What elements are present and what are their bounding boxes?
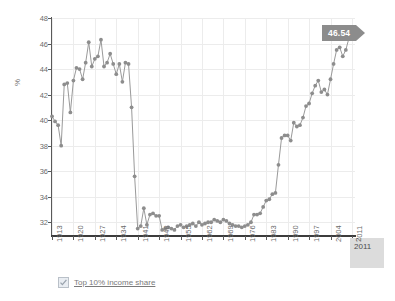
x-axis-tick-mark	[159, 236, 160, 240]
legend-checkbox[interactable]	[58, 277, 69, 288]
y-axis-tick-mark	[48, 18, 52, 19]
data-point[interactable]	[258, 211, 262, 215]
x-axis-tick-mark	[309, 236, 310, 240]
y-axis-tick-label: 44	[34, 65, 48, 74]
data-point[interactable]	[111, 62, 115, 66]
data-point[interactable]	[344, 48, 348, 52]
x-axis-tick-label: 1976	[248, 225, 257, 242]
y-axis-tick-label: 42	[34, 90, 48, 99]
legend: Top 10% income share	[58, 277, 155, 288]
data-point[interactable]	[127, 62, 131, 66]
data-point[interactable]	[108, 52, 112, 56]
data-point[interactable]	[194, 224, 198, 228]
data-point[interactable]	[133, 174, 137, 178]
data-point[interactable]	[307, 102, 311, 106]
y-axis-tick-mark	[48, 146, 52, 147]
tooltip-arrow-icon	[356, 25, 365, 41]
y-axis-tick-label: 34	[34, 192, 48, 201]
data-point[interactable]	[105, 61, 109, 65]
x-axis-tick-mark	[223, 236, 224, 240]
x-axis-tick-label: 1913	[55, 225, 64, 242]
x-axis-tick-label: 1927	[98, 225, 107, 242]
data-point[interactable]	[277, 163, 281, 167]
x-axis-tick-label: 1948	[162, 225, 171, 242]
data-point[interactable]	[78, 67, 82, 71]
data-point[interactable]	[136, 227, 140, 231]
data-point[interactable]	[286, 134, 290, 138]
y-axis-tick-mark	[48, 222, 52, 223]
y-axis-tick-label: 36	[34, 167, 48, 176]
data-point[interactable]	[304, 104, 308, 108]
data-point[interactable]	[53, 119, 57, 123]
data-point[interactable]	[84, 61, 88, 65]
x-axis-tick-mark	[73, 236, 74, 240]
x-axis-tick-label: 1962	[205, 225, 214, 242]
data-point[interactable]	[326, 93, 330, 97]
data-point[interactable]	[179, 223, 183, 227]
data-point[interactable]	[209, 220, 213, 224]
data-point[interactable]	[96, 54, 100, 58]
data-point[interactable]	[102, 65, 106, 69]
data-point[interactable]	[59, 144, 63, 148]
data-point[interactable]	[151, 211, 155, 215]
data-point[interactable]	[56, 123, 60, 127]
data-point[interactable]	[249, 220, 253, 224]
data-point[interactable]	[72, 79, 76, 83]
data-point[interactable]	[280, 136, 284, 140]
data-point[interactable]	[338, 45, 342, 49]
data-point[interactable]	[142, 206, 146, 210]
data-point[interactable]	[130, 105, 134, 109]
data-point[interactable]	[81, 77, 85, 81]
x-axis-tick-mark	[138, 236, 139, 240]
data-point[interactable]	[50, 114, 54, 118]
data-point[interactable]	[289, 139, 293, 143]
data-point[interactable]	[197, 220, 201, 224]
y-axis-tick-label: 38	[34, 141, 48, 150]
data-point[interactable]	[93, 57, 97, 61]
data-point[interactable]	[225, 219, 229, 223]
data-point[interactable]	[301, 116, 305, 120]
data-point[interactable]	[114, 72, 118, 76]
data-point[interactable]	[319, 90, 323, 94]
data-point[interactable]	[87, 40, 91, 44]
data-point[interactable]	[292, 121, 296, 125]
data-point[interactable]	[120, 80, 124, 84]
data-point[interactable]	[335, 48, 339, 52]
data-point[interactable]	[316, 79, 320, 83]
y-axis-tick-mark	[48, 171, 52, 172]
data-point[interactable]	[274, 191, 278, 195]
y-axis-tick-mark	[48, 197, 52, 198]
data-point[interactable]	[313, 84, 317, 88]
data-point[interactable]	[261, 205, 265, 209]
x-axis-tick-mark	[202, 236, 203, 240]
y-axis-tick-mark	[48, 95, 52, 96]
series-top-10-income-share	[52, 18, 355, 235]
y-axis-tick-label: 48	[34, 14, 48, 23]
data-point[interactable]	[90, 65, 94, 69]
data-point[interactable]	[65, 81, 69, 85]
data-point[interactable]	[298, 123, 302, 127]
data-point[interactable]	[218, 220, 222, 224]
x-axis-highlight[interactable]: 2011 2	[350, 238, 384, 268]
y-axis-tick-mark	[48, 69, 52, 70]
data-point[interactable]	[329, 77, 333, 81]
data-point[interactable]	[117, 62, 121, 66]
data-point[interactable]	[341, 54, 345, 58]
legend-item-top-10-income-share[interactable]: Top 10% income share	[58, 277, 155, 288]
legend-label[interactable]: Top 10% income share	[74, 278, 155, 287]
x-axis-tick-mark	[181, 236, 182, 240]
tooltip-value: 46.54	[328, 28, 350, 38]
data-point[interactable]	[68, 111, 72, 115]
x-axis-tick-label: 1983	[269, 225, 278, 242]
data-point[interactable]	[332, 62, 336, 66]
data-point[interactable]	[99, 38, 103, 42]
data-point[interactable]	[173, 228, 177, 232]
data-point[interactable]	[310, 91, 314, 95]
y-axis-tick-label: 40	[34, 116, 48, 125]
y-axis-tick-mark	[48, 44, 52, 45]
data-point[interactable]	[157, 214, 161, 218]
data-point[interactable]	[267, 197, 271, 201]
x-axis-tick-mark	[245, 236, 246, 240]
chart-container: % 323436384042444648 1913192019271934194…	[0, 0, 395, 301]
data-point[interactable]	[322, 88, 326, 92]
